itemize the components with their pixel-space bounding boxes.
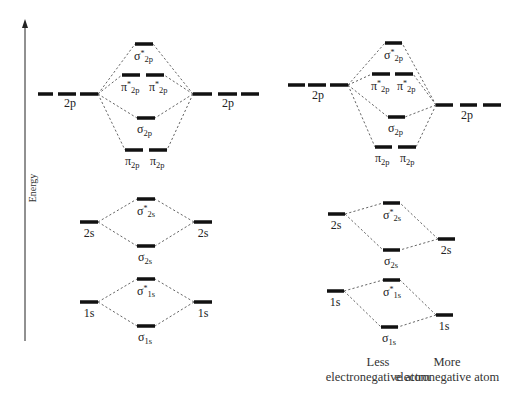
atomic-orbital-left-2p: 2p — [288, 85, 348, 102]
molecular-orbital-label: π2p — [125, 154, 140, 170]
molecular-orbital-sigma-1s: σ1s — [381, 327, 398, 347]
correlation-line — [400, 203, 438, 239]
correlation-line — [344, 291, 381, 327]
molecular-orbital-label: σ2s — [138, 250, 152, 266]
atomic-orbital-label: 2p — [222, 96, 234, 110]
molecular-orbital-label: σ*2s — [383, 208, 401, 223]
atomic-orbital-left-2s: 2s — [80, 222, 98, 240]
atomic-orbital-label: 2s — [331, 218, 342, 232]
atomic-orbital-label: 1s — [439, 319, 450, 333]
correlation-line — [413, 74, 436, 105]
atomic-orbital-right-2s: 2s — [438, 239, 455, 257]
caption-line: electronegative atom — [395, 370, 500, 384]
atomic-orbital-left-2p: 2p — [38, 94, 98, 110]
correlation-line — [400, 239, 438, 250]
molecular-orbital-sigma-star-2s: σ*2s — [137, 199, 155, 219]
atomic-orbital-right-2p: 2p — [436, 105, 501, 122]
atomic-orbital-label: 2s — [441, 243, 452, 257]
molecular-orbital-pi-star-2p: π*2pπ*2p — [371, 74, 416, 94]
molecular-orbital-label: π*2p — [121, 80, 140, 95]
atomic-orbital-label: 2s — [198, 226, 209, 240]
atomic-orbital-right-2s: 2s — [194, 222, 212, 240]
molecular-orbital-sigma-star-1s: σ*1s — [137, 279, 155, 299]
correlation-line — [167, 94, 193, 150]
atomic-orbital-right-2p: 2p — [193, 94, 259, 110]
molecular-orbital-label: σ2p — [388, 121, 403, 137]
atomic-orbital-label: 2p — [312, 88, 324, 102]
correlation-line — [398, 315, 436, 327]
correlation-line — [98, 75, 122, 94]
atomic-orbital-label: 1s — [330, 295, 341, 309]
atomic-orbital-label: 1s — [198, 306, 209, 320]
atomic-orbital-right-1s: 1s — [194, 302, 212, 320]
molecular-orbital-label: σ2p — [137, 122, 152, 138]
molecular-orbital-sigma-1s: σ1s — [137, 326, 155, 346]
arrow-up-icon — [22, 19, 28, 28]
molecular-orbital-label: π*2p — [371, 79, 390, 94]
correlation-line — [155, 199, 194, 222]
correlation-line — [348, 85, 375, 147]
correlation-line — [345, 214, 383, 250]
molecular-orbital-pi-star-2p: π*2pπ*2p — [121, 75, 168, 95]
atomic-orbital-label: 1s — [84, 306, 95, 320]
molecular-orbital-label: σ2s — [384, 254, 398, 270]
molecular-orbital-pi-2p: π2pπ2p — [375, 147, 416, 167]
correlation-line — [98, 199, 137, 222]
energy-axis: Energy — [22, 19, 38, 341]
molecular-orbital-sigma-2p: σ2p — [388, 117, 405, 137]
atomic-orbital-left-1s: 1s — [80, 302, 98, 320]
correlation-line — [344, 280, 383, 291]
molecular-orbital-label: σ*1s — [383, 285, 401, 300]
caption-line: Less — [367, 355, 390, 369]
atomic-orbital-label: 2p — [461, 108, 473, 122]
molecular-orbital-sigma-2s: σ2s — [137, 246, 155, 266]
correlation-line — [164, 75, 193, 94]
correlation-line — [348, 74, 372, 85]
molecular-orbital-label: π*2p — [397, 79, 416, 94]
atomic-orbital-left-1s: 1s — [327, 291, 344, 309]
molecular-orbital-sigma-star-2p: σ*2p — [384, 43, 403, 63]
molecular-orbital-sigma-star-2s: σ*2s — [383, 203, 401, 223]
molecular-orbital-label: π*2p — [149, 80, 168, 95]
homonuclear-diagram: 2p2p2s2s1s1sσ*2pπ*2pπ*2pσ2pπ2pπ2pσ*2sσ2s… — [38, 44, 259, 346]
correlation-line — [98, 302, 137, 326]
correlation-line — [155, 222, 194, 246]
molecular-orbital-label: π2p — [150, 154, 165, 170]
mo-energy-diagram: Energy 2p2p2s2s1s1sσ*2pπ*2pπ*2pσ2pπ2pπ2p… — [0, 0, 519, 410]
molecular-orbital-label: π2p — [375, 151, 390, 167]
atomic-orbital-label: 2s — [84, 226, 95, 240]
energy-axis-label: Energy — [27, 174, 38, 203]
atomic-orbital-label: 2p — [64, 96, 76, 110]
correlation-line — [155, 302, 194, 326]
molecular-orbital-sigma-star-2p: σ*2p — [134, 44, 153, 64]
atomic-orbital-right-1s: 1s — [436, 315, 453, 333]
molecular-orbital-label: σ*2s — [137, 204, 155, 219]
correlation-line — [98, 94, 125, 150]
caption-line: More — [433, 355, 461, 369]
caption-more-electronegative: Moreelectronegative atom — [395, 355, 500, 384]
correlation-line — [98, 279, 137, 302]
molecular-orbital-pi-2p: π2pπ2p — [125, 150, 167, 170]
molecular-orbital-label: σ*1s — [137, 284, 155, 299]
molecular-orbital-sigma-star-1s: σ*1s — [383, 280, 401, 300]
correlation-line — [98, 222, 137, 246]
molecular-orbital-label: σ1s — [382, 331, 396, 347]
correlation-line — [405, 105, 436, 117]
molecular-orbital-label: σ*2p — [134, 49, 153, 64]
heteronuclear-diagram: 2p2p2s2s1s1sσ*2pπ*2pπ*2pσ2pπ2pπ2pσ*2sσ2s… — [288, 43, 501, 384]
correlation-line — [155, 279, 194, 302]
molecular-orbital-label: σ*2p — [384, 48, 403, 63]
molecular-orbital-sigma-2p: σ2p — [137, 118, 155, 138]
correlation-line — [345, 203, 383, 214]
molecular-orbital-label: π2p — [400, 151, 415, 167]
correlation-line — [400, 280, 436, 315]
molecular-orbital-sigma-2s: σ2s — [383, 250, 400, 270]
atomic-orbital-left-2s: 2s — [328, 214, 345, 232]
molecular-orbital-label: σ1s — [138, 330, 152, 346]
